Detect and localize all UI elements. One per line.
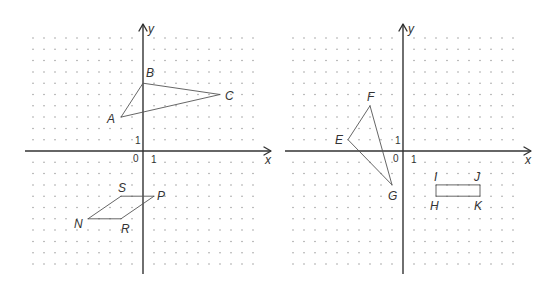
origin-label: 0 (133, 153, 139, 164)
x-tick-one-label: 1 (151, 154, 157, 165)
y-tick-one-label: 1 (135, 135, 141, 146)
vertex-label-E: E (335, 133, 344, 147)
vertex-label-J: J (473, 170, 481, 184)
coordinate-plane-right: xy011EFGIJKH (285, 22, 532, 274)
vertex-label-K: K (474, 199, 483, 213)
vertex-label-A: A (106, 112, 115, 126)
vertex-label-G: G (388, 189, 397, 203)
x-tick-one-label: 1 (411, 154, 417, 165)
vertex-label-N: N (74, 217, 83, 231)
triangle-ABC: ABC (106, 66, 234, 126)
rectangle-IJKH: IJKH (430, 170, 483, 213)
x-axis-label: x (524, 153, 532, 167)
x-axis-label: x (264, 153, 272, 167)
vertex-label-S: S (118, 181, 126, 195)
vertex-label-F: F (367, 90, 375, 104)
y-tick-one-label: 1 (395, 135, 401, 146)
y-axis-label: y (147, 22, 155, 36)
vertex-label-I: I (434, 170, 438, 184)
vertex-label-C: C (225, 89, 234, 103)
vertex-label-R: R (121, 222, 130, 236)
coordinate-diagram: xy011ABCNRPS xy011EFGIJKH (0, 0, 557, 282)
coordinate-plane-left: xy011ABCNRPS (25, 22, 272, 274)
vertex-label-H: H (430, 199, 439, 213)
parallelogram-NRPS: NRPS (74, 181, 165, 236)
vertex-label-B: B (146, 66, 154, 80)
vertex-label-P: P (157, 189, 165, 203)
origin-label: 0 (393, 153, 399, 164)
y-axis-label: y (407, 22, 415, 36)
triangle-EFG: EFG (335, 90, 397, 203)
